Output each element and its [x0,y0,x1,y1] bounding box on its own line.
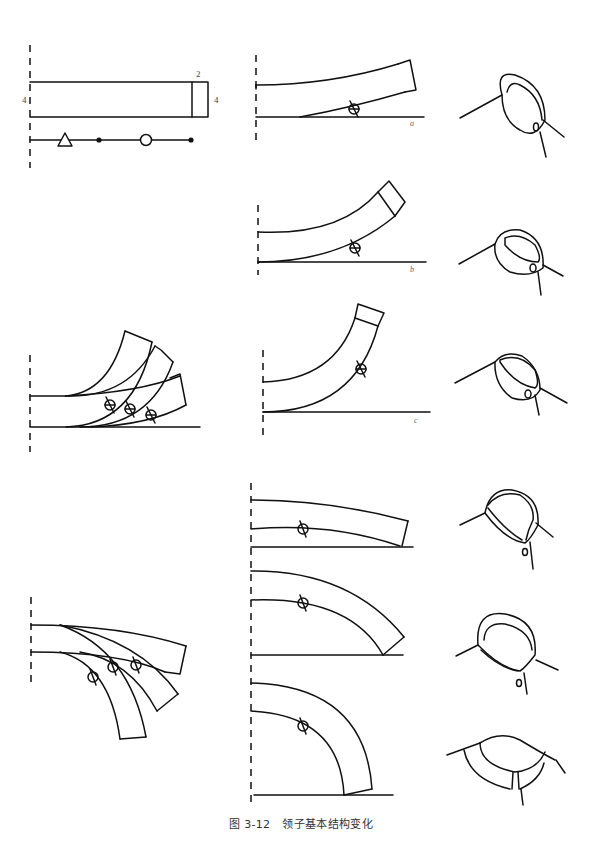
neckline-back [480,736,555,760]
variant-a-pattern: a [256,55,424,140]
notch-marker-icon [350,240,360,256]
neckline-right [536,660,558,670]
collar-outer [495,354,540,400]
figure-page: 4 2 4 a [0,0,602,851]
notch-marker-icon [146,407,156,423]
collar-inner-edge [258,216,395,262]
collar-end [383,637,404,655]
collar-inner-edge [66,342,152,427]
collar-inner-edge [251,527,400,546]
flat-collar-pattern-1 [251,500,413,547]
neckline-left [456,645,478,656]
placket-left [512,772,513,789]
button-icon [517,680,522,687]
front-line [538,272,541,295]
stand-collar-sketch-a [460,74,564,157]
variant-label: c [414,416,418,425]
neckline-right [556,760,565,773]
collar-outer-edge [66,346,155,396]
neckline-right [536,523,553,537]
flat-collar-pattern-2 [251,571,404,655]
notch-marker-icon [298,521,308,537]
dimension-left-label: 4 [22,95,27,105]
neckline-left [447,743,480,755]
collar-outer-edge [258,192,378,232]
neckline-left [459,244,495,264]
notch-marker-icon [298,718,308,734]
front-line [521,789,523,805]
collar-end [165,646,186,674]
collar-inner [500,358,538,388]
collar-end [398,60,416,92]
upward-curve-overlay [30,331,200,452]
stand-collar-sketch-c [455,354,567,415]
figure-title: 领子基本结构变化 [282,818,372,831]
collar-end [402,521,408,546]
figure-number: 图 3-12 [229,818,270,831]
collar-outer [485,490,538,543]
neckline-right [540,388,567,403]
shirt-collar-sketch-2 [456,614,558,694]
collar-end [155,346,173,362]
circle-marker-icon [141,135,152,146]
front-line [540,132,546,157]
notch-marker-icon [356,361,366,377]
collar-inner-edge [251,600,383,655]
neckline-right [543,265,563,276]
collar-inner [480,743,545,772]
neckline-left [460,95,502,118]
collar-outer-edge [251,500,408,521]
dimension-top-right-label: 2 [196,69,201,79]
button-icon [523,549,528,556]
collar-outer-edge [60,625,146,737]
collar-inner-edge [60,652,120,739]
front-line [530,542,533,569]
shirt-collar-sketch-1 [460,490,553,569]
collar-divider [378,192,395,216]
collar-divider [355,318,378,326]
figure-caption: 图 3-12领子基本结构变化 [0,815,602,831]
flat-collar-sketch [447,736,565,805]
variant-c-pattern: c [263,304,430,436]
variant-b-pattern: b [258,181,426,275]
notch-marker-icon [88,669,98,685]
front-line [524,673,527,694]
dot-marker-icon [96,137,101,142]
button-icon [525,390,531,398]
notch-marker-icon [105,397,115,413]
notch-marker-icon [131,657,141,673]
stand-collar-sketch-b [459,230,563,295]
flat-collar-pattern-3 [251,683,393,795]
collar-end [120,737,146,739]
collar-end [344,789,372,795]
collar-end [125,331,152,342]
downward-curve-overlay [31,597,186,739]
collar-inner-edge [251,711,344,795]
button-icon [534,123,539,131]
dot-marker-icon [188,137,193,142]
collar-inner [505,236,539,262]
collar-outer-edge [256,64,398,85]
collar-outer-edge [251,683,372,789]
collar-inner-edge [31,652,165,672]
collar-outer-edge [66,376,180,396]
collar-inner-edge [90,405,186,427]
neckline-left [455,362,495,383]
notch-marker-icon [125,401,135,417]
base-pattern: 4 2 4 [22,45,219,168]
notch-marker-icon [349,101,359,117]
collar-outer-edge [251,571,404,637]
variant-label: b [410,265,414,274]
button-icon [530,264,536,272]
collar-outer [478,614,536,671]
collar-inner [484,624,532,650]
neckline-right [543,120,564,137]
collar-diagram: 4 2 4 a [0,0,602,851]
placket-right [518,772,519,789]
collar-outer-edge [263,318,355,382]
collar-outer-edge [31,625,186,646]
variant-label: a [410,119,414,128]
base-collar-rect [30,82,208,117]
dimension-right-label: 4 [214,95,219,105]
collar-end [157,694,178,711]
